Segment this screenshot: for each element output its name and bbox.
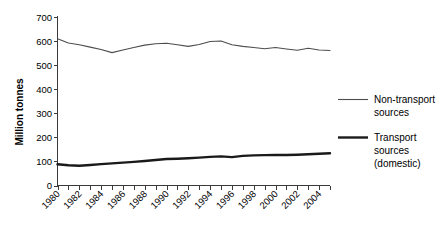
x-axis-tick-labels: 1980198219841986198819901992199419961998… [39,188,323,211]
y-axis-title: Million tonnes [14,78,25,146]
x-axis-tick-label: 2000 [257,188,280,211]
x-axis-tick-label: 2004 [301,188,324,211]
legend-label-transport-line2: sources [374,145,409,156]
y-axis-tick-label: 100 [36,156,52,167]
x-axis-tick-label: 1988 [126,188,149,211]
x-axis-tick-label: 1986 [105,188,128,211]
x-axis-tick-label: 1998 [235,188,258,211]
y-axis-tick-label: 200 [36,132,52,143]
legend-label-non-transport-line2: sources [374,107,409,118]
y-axis-tick-label: 400 [36,84,52,95]
legend-label-non-transport-line1: Non-transport [374,94,435,105]
legend-label-transport-line1: Transport [374,132,417,143]
y-axis-tick-label: 500 [36,60,52,71]
chart-series-group [58,39,331,166]
x-axis-tick-label: 1980 [39,188,62,211]
series-line-transport-sources [58,153,331,166]
x-axis-tick-label: 1984 [83,188,106,211]
y-axis-tick-label: 0 [47,180,52,191]
x-axis-tick-label: 1982 [61,188,84,211]
y-axis-tick-label: 300 [36,108,52,119]
line-chart: Million tonnes 0100200300400500600700 19… [0,0,448,247]
x-axis-tick-label: 2002 [279,188,302,211]
x-axis-tick-marks [59,186,331,191]
y-axis-tick-label: 600 [36,36,52,47]
x-axis-tick-label: 1992 [170,188,193,211]
chart-legend: Non-transport sources Transport sources … [338,94,435,169]
x-axis-tick-label: 1994 [192,188,215,211]
y-axis-tick-marks [54,18,58,187]
x-axis-tick-label: 1990 [148,188,171,211]
y-axis-title-label: Million tonnes [14,78,25,146]
y-axis-tick-labels: 0100200300400500600700 [36,12,52,192]
series-line-non-transport-sources [58,39,331,53]
y-axis-tick-label: 700 [36,12,52,23]
chart-figure: Million tonnes 0100200300400500600700 19… [0,0,448,247]
x-axis-tick-label: 1996 [214,188,237,211]
legend-label-transport-line3: (domestic) [374,158,421,169]
